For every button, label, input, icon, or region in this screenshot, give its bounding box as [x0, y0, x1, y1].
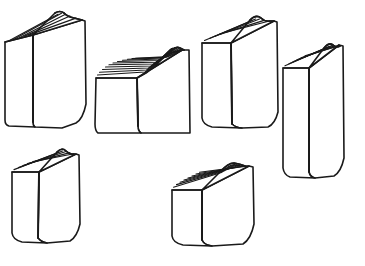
book-bottom-left-spine-fold — [38, 172, 39, 238]
book-top-left-spine — [5, 35, 35, 127]
book-top-center-spine — [95, 78, 141, 133]
book-top-left-cover — [33, 20, 86, 128]
books-drawing-canvas — [0, 0, 365, 266]
book-top-center-spine-fold — [137, 78, 138, 126]
book-top-right-spine-fold — [231, 43, 232, 124]
books-illustration — [0, 0, 365, 266]
